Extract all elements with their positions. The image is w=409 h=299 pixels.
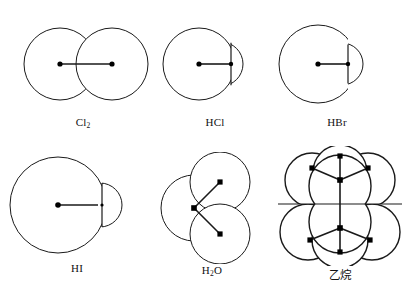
caption-ethane: 乙烷 [272, 266, 408, 282]
caption-hbr: HBr [272, 116, 402, 128]
caption-h2o-text: H [202, 264, 210, 276]
nucleus-cl-right [109, 61, 114, 66]
hbr-diagram [272, 10, 402, 116]
caption-h2o-sub: 2 [210, 269, 214, 278]
nucleus-h-upper-right [365, 165, 370, 170]
nucleus-h-lower-center [337, 249, 342, 254]
nucleus-h [346, 62, 350, 66]
nucleus-c-lower [337, 225, 343, 231]
nucleus-h-lower [217, 231, 222, 236]
ethane-diagram [272, 146, 408, 266]
molecule-cell-hcl: HCl [155, 12, 275, 116]
molecule-cell-hbr: HBr [272, 10, 402, 116]
caption-h2o: H2O [152, 264, 272, 276]
nucleus-h-upper-center [337, 153, 342, 158]
nucleus-h [100, 203, 103, 206]
nucleus-i [55, 202, 61, 208]
molecule-cell-h2o: H2O [152, 152, 272, 264]
hcl-diagram [155, 12, 275, 116]
nucleus-h-lower-right [367, 237, 372, 242]
nucleus-h-upper-left [309, 165, 314, 170]
molecule-cell-cl2: Cl2 [8, 12, 158, 116]
hi-diagram [2, 150, 152, 260]
nucleus-h-upper [217, 179, 222, 184]
molecular-models-figure: Cl2 HCl [0, 0, 409, 299]
caption-h2o-suffix: O [214, 264, 222, 276]
nucleus-h-lower-left [307, 237, 312, 242]
cl2-diagram [8, 12, 158, 116]
molecule-cell-hi: HI [2, 150, 152, 260]
caption-cl2: Cl2 [8, 116, 158, 128]
nucleus-h [229, 62, 233, 66]
nucleus-cl [196, 61, 201, 66]
nucleus-c-upper [337, 177, 343, 183]
h2o-diagram [152, 152, 272, 264]
nucleus-o [191, 205, 197, 211]
caption-cl2-text: Cl [76, 116, 87, 128]
nucleus-cl-left [57, 61, 62, 66]
caption-hi: HI [2, 262, 152, 274]
molecule-cell-ethane: 乙烷 [272, 146, 408, 266]
caption-cl2-sub: 2 [86, 121, 90, 130]
caption-hcl: HCl [155, 116, 275, 128]
nucleus-br [315, 61, 320, 66]
